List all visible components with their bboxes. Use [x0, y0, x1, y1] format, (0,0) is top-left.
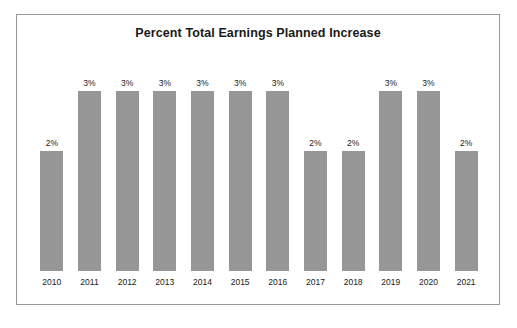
bar-group: 3%2011 [71, 46, 109, 271]
x-axis-tick-label: 2013 [146, 277, 184, 287]
bar-rect[interactable] [78, 91, 101, 271]
x-axis-tick-label: 2019 [372, 277, 410, 287]
plot-area: 2%20103%20113%20123%20133%20143%20153%20… [17, 15, 499, 304]
bar-column: 3% [372, 46, 410, 271]
x-axis-tick-label: 2015 [221, 277, 259, 287]
bar-column: 2% [334, 46, 372, 271]
bar-rect[interactable] [266, 91, 289, 271]
x-axis-tick-label: 2011 [71, 277, 109, 287]
x-axis-tick-label: 2010 [33, 277, 71, 287]
bar-value-label: 3% [272, 79, 284, 88]
bar-rect[interactable] [116, 91, 139, 271]
bar-value-label: 3% [234, 79, 246, 88]
bar-rect[interactable] [40, 151, 63, 271]
x-axis-tick-label: 2018 [334, 277, 372, 287]
bar-rect[interactable] [191, 91, 214, 271]
bar-rect[interactable] [417, 91, 440, 271]
bar-group: 3%2019 [372, 46, 410, 271]
bar-column: 3% [71, 46, 109, 271]
bar-value-label: 2% [46, 139, 58, 148]
bar-value-label: 2% [460, 139, 472, 148]
bar-value-label: 3% [83, 79, 95, 88]
bar-column: 3% [410, 46, 448, 271]
bar-value-label: 3% [422, 79, 434, 88]
x-axis-tick-label: 2020 [410, 277, 448, 287]
bar-rect[interactable] [304, 151, 327, 271]
bar-group: 2%2010 [33, 46, 71, 271]
bar-group: 2%2018 [334, 46, 372, 271]
bar-group: 2%2017 [297, 46, 335, 271]
bar-rect[interactable] [342, 151, 365, 271]
bar-value-label: 3% [196, 79, 208, 88]
bar-rect[interactable] [153, 91, 176, 271]
x-axis-tick-label: 2021 [447, 277, 485, 287]
bar-group: 3%2016 [259, 46, 297, 271]
bar-column: 2% [297, 46, 335, 271]
bar-value-label: 3% [159, 79, 171, 88]
bar-group: 3%2013 [146, 46, 184, 271]
bar-rect[interactable] [455, 151, 478, 271]
bar-column: 3% [146, 46, 184, 271]
x-axis-tick-label: 2014 [184, 277, 222, 287]
bar-column: 2% [33, 46, 71, 271]
bar-group: 3%2015 [221, 46, 259, 271]
bar-value-label: 3% [121, 79, 133, 88]
bar-group: 3%2020 [410, 46, 448, 271]
bar-value-label: 2% [347, 139, 359, 148]
bar-column: 3% [259, 46, 297, 271]
bar-group: 2%2021 [447, 46, 485, 271]
x-axis-tick-label: 2016 [259, 277, 297, 287]
bar-value-label: 3% [385, 79, 397, 88]
bar-rect[interactable] [229, 91, 252, 271]
bar-group: 3%2012 [108, 46, 146, 271]
bar-column: 3% [184, 46, 222, 271]
bar-column: 3% [108, 46, 146, 271]
x-axis-tick-label: 2012 [108, 277, 146, 287]
bar-column: 2% [447, 46, 485, 271]
bar-value-label: 2% [309, 139, 321, 148]
chart-container: Percent Total Earnings Planned Increase … [16, 14, 500, 305]
bar-column: 3% [221, 46, 259, 271]
bar-rect[interactable] [379, 91, 402, 271]
x-axis-tick-label: 2017 [297, 277, 335, 287]
bar-group: 3%2014 [184, 46, 222, 271]
